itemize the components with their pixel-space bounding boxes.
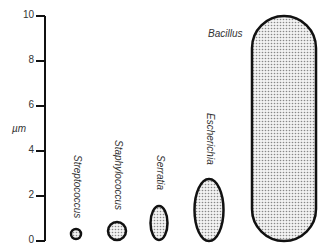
tick-10: 10 xyxy=(20,9,34,20)
staphylococcus-cell xyxy=(108,222,126,240)
y-axis xyxy=(36,16,45,241)
tick-8: 8 xyxy=(20,54,34,65)
bacteria-size-diagram: 10 8 6 4 2 0 µm Streptococcus Staphyloco… xyxy=(0,0,326,251)
tick-6: 6 xyxy=(20,99,34,110)
tick-4: 4 xyxy=(20,144,34,155)
y-axis-unit: µm xyxy=(12,123,26,134)
label-bacillus: Bacillus xyxy=(208,28,242,39)
streptococcus-cell xyxy=(71,229,81,239)
serratia-cell xyxy=(151,206,168,240)
tick-0: 0 xyxy=(20,234,34,245)
escherichia-cell xyxy=(195,179,224,241)
label-escherichia: Escherichia xyxy=(205,113,216,165)
bacillus-cell xyxy=(252,16,316,241)
label-streptococcus: Streptococcus xyxy=(72,155,83,218)
tick-2: 2 xyxy=(20,189,34,200)
label-serratia: Serratia xyxy=(155,155,166,190)
diagram-canvas xyxy=(0,0,326,251)
label-staphylococcus: Staphylococcus xyxy=(113,140,124,210)
